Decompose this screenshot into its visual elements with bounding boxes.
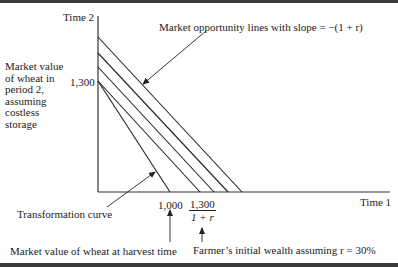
harvest-value-label: Market value of wheat at harvest time	[10, 245, 177, 257]
market-line-2	[98, 67, 214, 192]
y-axis-label: Time 2	[63, 11, 94, 23]
transformation-arrow	[107, 172, 155, 207]
fraction-denominator: 1 + r	[189, 211, 216, 223]
fraction-numerator: 1,300	[189, 198, 216, 211]
market-lines-label: Market opportunity lines with slope = −(…	[159, 21, 363, 33]
transformation-curve-label: Transformation curve	[17, 208, 112, 220]
x-tick-1000: 1,000	[158, 199, 183, 211]
x-axis-label: Time 1	[360, 196, 391, 208]
diagram-canvas	[0, 0, 398, 267]
x-tick-fraction: 1,300 1 + r	[189, 198, 216, 223]
market-line-1	[98, 81, 200, 192]
y-side-description: Market value of wheat in period 2, assum…	[5, 61, 65, 130]
y-tick-1300: 1,300	[70, 76, 95, 88]
market-line-3	[98, 53, 228, 192]
initial-wealth-label: Farmer’s initial wealth assuming r = 30%	[193, 244, 376, 256]
market-lines-arrow	[143, 31, 206, 84]
transformation-curve	[98, 81, 170, 192]
